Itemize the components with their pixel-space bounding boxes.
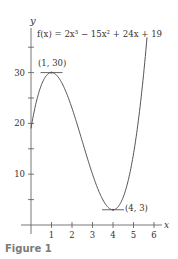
x-tick-label: 6 [151,230,156,240]
x-axis-label: x [164,220,169,230]
y-tick-label: 20 [14,118,25,128]
y-axis-label: y [29,15,36,26]
x-tick-label: 1 [49,230,54,240]
x-tick-label: 4 [110,230,115,240]
x-tick-label: 2 [69,230,74,240]
function-plot: 123456102030 y x f(x) = 2x³ − 15x² + 24x… [0,0,178,259]
x-tick-label: 5 [131,230,136,240]
y-tick-label: 30 [14,68,25,78]
local-maximum-point [51,72,53,74]
local-minimum-point [112,209,114,211]
equation-label: f(x) = 2x³ − 15x² + 24x + 19 [37,29,162,39]
x-tick-label: 3 [90,230,95,240]
y-tick-label: 10 [14,169,25,179]
figure-caption: Figure 1 [5,243,52,254]
local-min-label: (4, 3) [125,203,148,213]
local-max-label: (1, 30) [38,58,66,68]
